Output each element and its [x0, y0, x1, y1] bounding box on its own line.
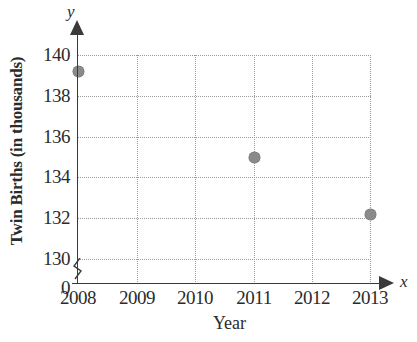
gridline-horizontal-140	[78, 55, 371, 56]
y-axis-symbol: y	[67, 2, 75, 22]
x-axis-line	[72, 283, 381, 284]
gridline-horizontal-132	[78, 218, 371, 219]
gridline-vertical-2009	[137, 55, 138, 282]
y-axis-arrowhead-icon	[70, 20, 84, 35]
y-tick-label: 130	[0, 249, 76, 268]
y-axis-line	[77, 32, 78, 284]
data-point	[365, 209, 376, 220]
y-tick-label: 140	[0, 45, 76, 64]
gridline-horizontal-138	[78, 96, 371, 97]
x-axis-title-text: Year	[171, 313, 246, 333]
plot-area	[78, 55, 371, 258]
y-tick-label: 132	[0, 208, 76, 227]
gridline-horizontal-134	[78, 177, 371, 178]
y-tick-label: 134	[0, 167, 76, 186]
x-axis-title: Year	[0, 313, 417, 334]
y-tick-label: 136	[0, 127, 76, 146]
gridline-horizontal-130	[78, 259, 371, 260]
x-tick-label: 2013	[335, 287, 405, 309]
data-point	[249, 152, 260, 163]
y-tick-label: 138	[0, 86, 76, 105]
gridline-vertical-2010	[195, 55, 196, 282]
gridline-vertical-2012	[312, 55, 313, 282]
gridline-vertical-2011	[254, 55, 255, 282]
twin-births-scatter-chart: Twin Births (in thousands) 140 138 136 1…	[0, 0, 417, 342]
gridline-vertical-2013	[370, 55, 371, 282]
axis-break-icon	[69, 258, 85, 280]
gridline-horizontal-136	[78, 137, 371, 138]
data-point	[73, 66, 84, 77]
